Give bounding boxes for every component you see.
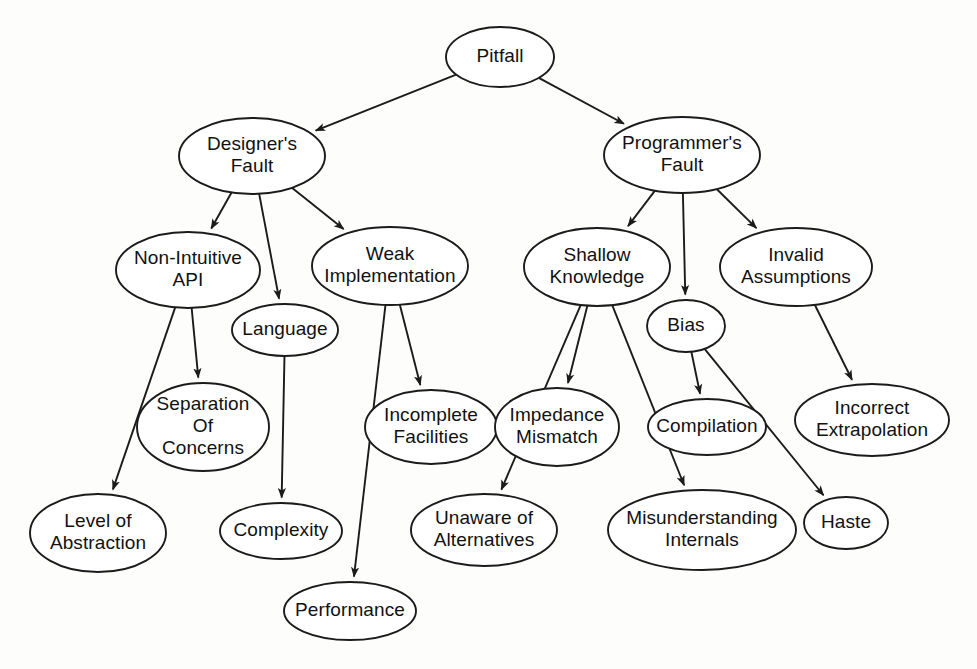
node-label-shallow: Knowledge: [550, 266, 645, 287]
node-label-separation: Concerns: [162, 437, 244, 458]
node-label-incorrect: Incorrect: [835, 397, 910, 418]
node-impedance[interactable]: ImpedanceMismatch: [495, 388, 619, 466]
edge-programmers-to-bias: [683, 193, 685, 295]
node-label-shallow: Shallow: [563, 244, 630, 265]
node-label-incomplete: Facilities: [394, 426, 469, 447]
edge-language-to-complexity: [282, 356, 285, 498]
node-designers[interactable]: Designer'sFault: [179, 118, 325, 194]
node-label-levelabs: Abstraction: [50, 532, 146, 553]
node-label-nonintuitive: Non-Intuitive: [134, 247, 242, 268]
node-invalid[interactable]: InvalidAssumptions: [720, 228, 872, 306]
node-label-unaware: Unaware of: [435, 507, 534, 528]
node-misunderstand[interactable]: MisunderstandingInternals: [608, 490, 796, 570]
node-pitfall[interactable]: Pitfall: [446, 27, 554, 87]
edge-pitfall-to-designers: [316, 75, 456, 131]
diagram-canvas: PitfallDesigner'sFaultProgrammer'sFaultN…: [0, 0, 977, 669]
node-language[interactable]: Language: [232, 304, 338, 356]
node-haste[interactable]: Haste: [804, 497, 888, 549]
node-label-incomplete: Incomplete: [384, 404, 478, 425]
node-label-programmers: Fault: [661, 154, 704, 175]
edge-designers-to-nonintuitive: [211, 192, 231, 228]
node-performance[interactable]: Performance: [284, 582, 416, 640]
node-shallow[interactable]: ShallowKnowledge: [524, 228, 670, 306]
edge-weakimpl-to-incomplete: [400, 305, 420, 385]
node-label-misunderstand: Misunderstanding: [626, 507, 778, 528]
node-label-pitfall: Pitfall: [476, 45, 523, 66]
pitfall-tree-graph: PitfallDesigner'sFaultProgrammer'sFaultN…: [0, 0, 977, 669]
node-complexity[interactable]: Complexity: [220, 503, 342, 559]
edge-shallow-to-impedance: [568, 306, 587, 383]
node-programmers[interactable]: Programmer'sFault: [604, 117, 760, 193]
node-label-bias: Bias: [667, 314, 704, 335]
node-label-performance: Performance: [295, 599, 405, 620]
nodes-layer: PitfallDesigner'sFaultProgrammer'sFaultN…: [30, 27, 949, 640]
node-bias[interactable]: Bias: [647, 300, 725, 352]
edge-designers-to-weakimpl: [292, 188, 344, 229]
node-label-programmers: Programmer's: [622, 132, 742, 153]
node-label-levelabs: Level of: [64, 510, 132, 531]
node-incorrect[interactable]: IncorrectExtrapolation: [795, 384, 949, 456]
edge-programmers-to-shallow: [628, 191, 655, 226]
edge-nonintuitive-to-separation: [192, 308, 199, 378]
node-label-compilation: Compilation: [656, 415, 757, 436]
node-label-misunderstand: Internals: [665, 529, 739, 550]
node-label-incorrect: Extrapolation: [816, 419, 928, 440]
node-label-impedance: Mismatch: [516, 426, 598, 447]
node-label-invalid: Assumptions: [741, 266, 851, 287]
node-label-nonintuitive: API: [173, 269, 204, 290]
node-weakimpl[interactable]: WeakImplementation: [312, 227, 468, 305]
edge-programmers-to-invalid: [717, 189, 757, 228]
edge-designers-to-language: [259, 194, 279, 299]
node-label-designers: Fault: [231, 155, 274, 176]
edge-pitfall-to-programmers: [539, 78, 624, 124]
node-label-weakimpl: Weak: [366, 243, 415, 264]
node-label-separation: Of: [193, 415, 214, 436]
node-label-designers: Designer's: [207, 133, 297, 154]
node-levelabs[interactable]: Level ofAbstraction: [30, 494, 166, 572]
node-label-impedance: Impedance: [510, 404, 605, 425]
node-label-invalid: Invalid: [768, 244, 824, 265]
node-nonintuitive[interactable]: Non-IntuitiveAPI: [116, 232, 260, 308]
edge-bias-to-compilation: [691, 352, 700, 394]
node-label-language: Language: [242, 318, 327, 339]
node-separation[interactable]: SeparationOfConcerns: [137, 383, 269, 471]
node-unaware[interactable]: Unaware ofAlternatives: [411, 494, 557, 566]
node-label-unaware: Alternatives: [434, 529, 534, 550]
node-label-separation: Separation: [157, 393, 250, 414]
node-incomplete[interactable]: IncompleteFacilities: [365, 390, 497, 464]
node-compilation[interactable]: Compilation: [648, 399, 766, 455]
node-label-weakimpl: Implementation: [324, 265, 455, 286]
node-label-haste: Haste: [821, 511, 871, 532]
edge-invalid-to-incorrect: [815, 305, 852, 380]
node-label-complexity: Complexity: [234, 519, 329, 540]
